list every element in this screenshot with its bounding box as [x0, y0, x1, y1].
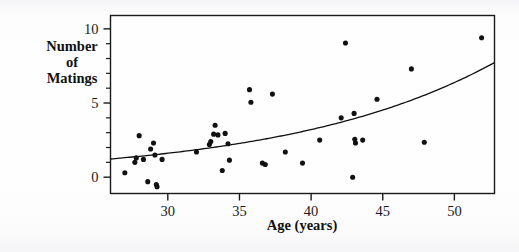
data-point — [220, 168, 225, 173]
data-point — [215, 132, 220, 137]
data-point — [317, 138, 322, 143]
data-point — [374, 97, 379, 102]
data-point — [211, 132, 216, 137]
data-point — [247, 87, 252, 92]
data-point — [360, 138, 365, 143]
data-point — [263, 162, 268, 167]
data-point — [223, 131, 228, 136]
data-point — [283, 149, 288, 154]
data-point — [350, 175, 355, 180]
data-point — [160, 157, 165, 162]
data-point — [132, 160, 137, 165]
data-point — [409, 66, 414, 71]
data-point — [155, 184, 160, 189]
y-axis-tick-label: 5 — [91, 95, 98, 111]
x-axis-tick-label: 50 — [447, 203, 462, 219]
x-axis-tick-label: 35 — [232, 203, 247, 219]
y-axis-title-line-1: Number — [46, 38, 98, 54]
data-point — [352, 111, 357, 116]
x-axis-ticks — [168, 194, 455, 201]
y-axis-tick-label: 0 — [91, 169, 98, 185]
data-point — [194, 149, 199, 154]
data-point — [343, 40, 348, 45]
data-point — [248, 100, 253, 105]
data-point — [225, 141, 230, 146]
x-axis-tick-label: 45 — [375, 203, 390, 219]
data-point — [122, 170, 127, 175]
data-point — [213, 123, 218, 128]
y-axis-ticks — [104, 29, 111, 177]
data-point — [148, 146, 153, 151]
data-point — [422, 140, 427, 145]
data-point — [479, 35, 484, 40]
data-point — [151, 141, 156, 146]
data-point — [152, 152, 157, 157]
scatter-plot: 0510 3035404550 Number of Matings Age (y… — [0, 0, 519, 252]
data-point — [141, 157, 146, 162]
data-point — [208, 139, 213, 144]
figure-container: 0510 3035404550 Number of Matings Age (y… — [0, 0, 519, 252]
data-point — [145, 179, 150, 184]
y-axis-title-line-3: Matings — [47, 70, 98, 86]
data-point — [137, 133, 142, 138]
data-point — [227, 158, 232, 163]
y-axis-title-line-2: of — [66, 54, 78, 70]
y-axis-tick-label: 10 — [84, 21, 99, 37]
x-axis-tick-label: 30 — [161, 203, 176, 219]
x-axis-title: Age (years) — [267, 217, 338, 234]
y-axis-title: Number of Matings — [46, 38, 98, 86]
plot-frame — [111, 16, 495, 194]
data-point — [134, 155, 139, 160]
data-point — [339, 115, 344, 120]
data-point — [270, 92, 275, 97]
data-point — [300, 161, 305, 166]
data-point — [353, 141, 358, 146]
